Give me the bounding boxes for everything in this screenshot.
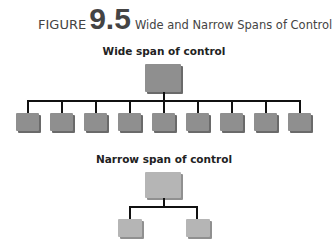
narrow-child-connector — [129, 206, 131, 219]
narrow-subordinate-box — [186, 219, 210, 237]
wide-child-connector — [129, 100, 131, 113]
wide-subordinate-box — [152, 113, 175, 131]
narrow-manager-box — [145, 172, 181, 198]
narrow-span-title: Narrow span of control — [96, 153, 232, 165]
wide-subordinate-box — [84, 113, 107, 131]
wide-child-connector — [197, 100, 199, 113]
figure-label: FIGURE — [38, 17, 86, 32]
wide-subordinate-box — [16, 113, 39, 131]
wide-child-connector — [265, 100, 267, 113]
narrow-horizontal-connector — [129, 206, 198, 208]
wide-child-connector — [231, 100, 233, 113]
wide-child-connector — [95, 100, 97, 113]
wide-subordinate-box — [186, 113, 209, 131]
wide-span-title: Wide span of control — [103, 45, 226, 57]
narrow-child-connector — [196, 206, 198, 219]
wide-manager-box — [145, 64, 181, 92]
wide-subordinate-box — [50, 113, 73, 131]
figure-number: 9.5 — [89, 2, 131, 35]
wide-subordinate-box — [254, 113, 277, 131]
wide-subordinate-box — [288, 113, 311, 131]
wide-child-connector — [299, 100, 301, 113]
wide-child-connector — [27, 100, 29, 113]
narrow-subordinate-box — [118, 219, 142, 237]
wide-subordinate-box — [118, 113, 141, 131]
figure-caption: Wide and Narrow Spans of Control — [135, 18, 332, 32]
figure-title: FIGURE9.5Wide and Narrow Spans of Contro… — [38, 4, 332, 34]
wide-child-connector — [61, 100, 63, 113]
wide-subordinate-box — [220, 113, 243, 131]
wide-child-connector — [163, 100, 165, 113]
